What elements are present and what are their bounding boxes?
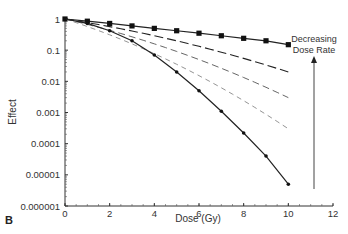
square-marker <box>219 33 224 38</box>
diamond-marker <box>242 131 246 135</box>
diamond-marker <box>175 70 179 74</box>
x-tick-label: 12 <box>328 208 339 219</box>
square-marker <box>241 36 246 41</box>
y-tick-label: 0.0001 <box>31 138 60 149</box>
x-tick-label: 0 <box>62 208 67 219</box>
y-tick-label: 0.001 <box>36 107 60 118</box>
diamond-marker <box>153 53 157 57</box>
series-3 <box>65 19 288 129</box>
square-marker <box>152 26 157 31</box>
x-tick-label: 10 <box>283 208 294 219</box>
annotation-line2: Dose Rate <box>293 45 336 55</box>
diamond-marker <box>197 89 201 93</box>
square-marker <box>129 23 134 28</box>
y-tick-label: 0.01 <box>42 76 61 87</box>
diamond-marker <box>63 17 67 21</box>
series-0 <box>62 16 291 47</box>
square-marker <box>286 42 291 47</box>
y-axis-title: Effect <box>7 99 18 125</box>
series-4 <box>63 17 290 186</box>
y-tick-label: 0.1 <box>47 45 60 56</box>
diamond-marker <box>220 109 224 113</box>
panel-label: B <box>5 214 13 226</box>
dose-effect-chart: 10.10.010.0010.00010.000010.000001 02468… <box>0 0 348 234</box>
square-marker <box>263 38 268 43</box>
diamond-marker <box>264 154 268 158</box>
x-tick-label: 2 <box>107 208 112 219</box>
diamond-marker <box>108 29 112 33</box>
x-tick-label: 4 <box>152 208 157 219</box>
square-marker <box>196 31 201 36</box>
y-tick-label: 0.000001 <box>20 201 60 212</box>
y-tick-labels: 10.10.010.0010.00010.000010.000001 <box>20 14 68 212</box>
y-tick-label: 0.00001 <box>26 169 60 180</box>
diamond-marker <box>130 39 134 43</box>
diamond-marker <box>287 182 291 186</box>
square-marker <box>174 28 179 33</box>
dose-rate-annotation: Decreasing Dose Rate <box>291 34 337 189</box>
x-tick-label: 8 <box>241 208 246 219</box>
x-axis-title: Dose (Gy) <box>175 213 221 224</box>
annotation-line1: Decreasing <box>291 34 337 44</box>
square-marker <box>107 21 112 26</box>
series-group <box>62 16 291 186</box>
diamond-marker <box>86 22 90 26</box>
arrow-up-icon <box>311 56 317 63</box>
y-tick-label: 1 <box>55 14 60 25</box>
